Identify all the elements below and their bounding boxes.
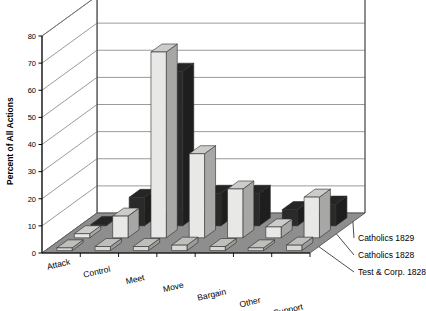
- y-tick-label: 10: [28, 222, 36, 231]
- bar-front-face: [228, 189, 243, 238]
- legend-leader-1: [336, 234, 354, 255]
- category-label: Other: [238, 295, 261, 310]
- category-label: Control: [82, 264, 111, 280]
- legend-leader-2: [319, 247, 354, 272]
- y-tick-label: 20: [28, 195, 36, 204]
- legend-label-1: Catholics 1828: [358, 250, 415, 260]
- bar-front-face: [151, 52, 166, 238]
- category-label: Move: [162, 280, 185, 294]
- bar-front-face: [133, 247, 148, 251]
- bar-chart-figure: 01020304050607080 AttackControlMeetMoveB…: [0, 0, 426, 311]
- y-tick-label: 40: [28, 140, 36, 149]
- y-tick-label: 70: [28, 59, 36, 68]
- bar-front-face: [304, 197, 319, 238]
- bar-front-face: [95, 247, 110, 251]
- category-label: Meet: [125, 272, 146, 286]
- category-label: Support: [273, 301, 305, 311]
- y-tick-label: 60: [28, 86, 36, 95]
- legend-label-0: Catholics 1829: [358, 233, 415, 243]
- bar-front-face: [113, 216, 128, 238]
- legend-leader-0: [353, 222, 354, 238]
- y-axis-title: Percent of All Actions: [5, 97, 15, 185]
- y-tick-label: 30: [28, 167, 36, 176]
- chart-canvas: 01020304050607080 AttackControlMeetMoveB…: [0, 0, 426, 311]
- legend-label-2: Test & Corp. 1828: [358, 267, 426, 277]
- bar-front-face: [74, 234, 89, 238]
- bar: [189, 146, 215, 238]
- y-tick-label: 80: [28, 32, 36, 41]
- bar-front-face: [57, 248, 72, 251]
- legend-labels: Catholics 1829Catholics 1828Test & Corp.…: [358, 233, 426, 277]
- y-tick-label: 50: [28, 113, 36, 122]
- bar-front-face: [210, 247, 225, 251]
- bar-front-face: [189, 154, 204, 238]
- bar-side-face: [243, 181, 254, 238]
- bar: [151, 44, 177, 238]
- bar-side-face: [205, 146, 216, 238]
- bar: [304, 189, 330, 238]
- category-label: Bargain: [196, 286, 227, 302]
- y-tick-labels: 01020304050607080: [28, 32, 36, 258]
- bar-side-face: [319, 189, 330, 238]
- category-labels: AttackControlMeetMoveBargainOtherSupport: [46, 256, 305, 311]
- bar-front-face: [172, 245, 187, 250]
- bar-front-face: [287, 245, 302, 250]
- category-label: Attack: [46, 256, 72, 271]
- bar: [228, 181, 254, 238]
- bar-front-face: [266, 227, 281, 238]
- x-axis-ticks: [80, 253, 310, 257]
- bar-front-face: [248, 248, 263, 251]
- bar-side-face: [166, 44, 177, 238]
- y-tick-label: 0: [32, 249, 36, 258]
